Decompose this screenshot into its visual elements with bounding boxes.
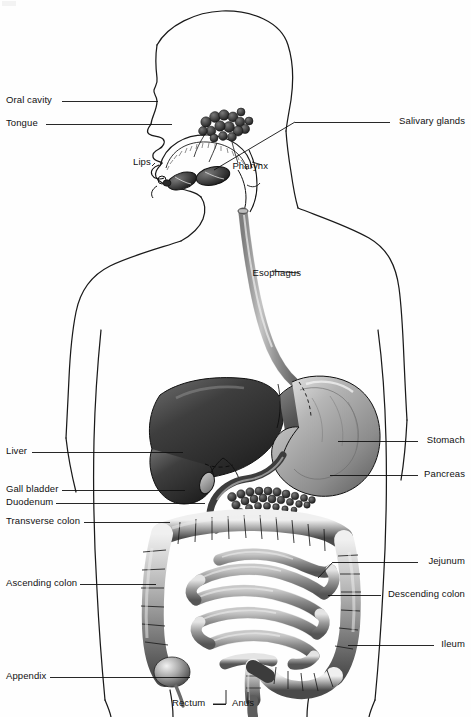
label-stomach: Stomach <box>427 435 465 445</box>
label-gall-bladder: Gall bladder <box>6 484 58 494</box>
label-rectum: Rectum <box>172 698 205 708</box>
rectum-anus-shape <box>246 666 268 716</box>
label-oral-cavity: Oral cavity <box>6 95 52 105</box>
label-esophagus: Esophagus <box>253 268 301 278</box>
digestive-system-figure: Oral cavityTongueLipsLiverGall bladderDu… <box>0 0 471 717</box>
label-lips: Lips <box>133 157 151 167</box>
label-pharynx: Pharynx <box>232 161 268 171</box>
label-ascending-colon: Ascending colon <box>6 578 77 588</box>
label-salivary-glands: Salivary glands <box>399 116 465 126</box>
anatomy-illustration <box>0 0 471 717</box>
label-pancreas: Pancreas <box>424 469 465 479</box>
label-jejunum: Jejunum <box>428 556 465 566</box>
leader-rectum <box>213 690 226 704</box>
salivary-gland-cluster <box>194 108 253 163</box>
label-descending-colon: Descending colon <box>388 589 465 599</box>
esophagus-shape <box>238 209 294 382</box>
leader-lips <box>152 163 155 166</box>
label-appendix: Appendix <box>6 671 46 681</box>
label-liver: Liver <box>6 446 27 456</box>
label-tongue: Tongue <box>6 118 38 128</box>
label-duodenum: Duodenum <box>6 497 53 507</box>
label-transverse-colon: Transverse colon <box>6 516 80 526</box>
label-anus: Anus <box>232 698 254 708</box>
label-ileum: Ileum <box>441 639 465 649</box>
